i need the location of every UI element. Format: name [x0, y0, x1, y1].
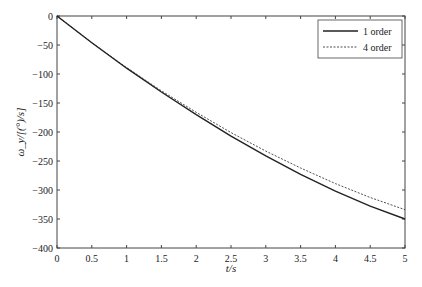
y-tick-label: −300 — [32, 185, 53, 196]
x-tick-label: 4 — [333, 253, 338, 264]
x-tick-label: 3.5 — [294, 253, 307, 264]
x-tick-label: 2 — [194, 253, 199, 264]
y-axis-label: ω_y/[(°)/s] — [14, 108, 27, 157]
y-tick-label: −350 — [32, 214, 53, 225]
x-tick-label: 0.5 — [86, 253, 99, 264]
chart: 00.511.522.533.544.55 0−50−100−150−200−2… — [0, 0, 422, 287]
x-tick-label: 5 — [403, 253, 408, 264]
y-tick-label: 0 — [48, 11, 53, 22]
x-tick-label: 1 — [124, 253, 129, 264]
y-tick-label: −50 — [37, 40, 53, 51]
legend-label-1-order: 1 order — [363, 26, 392, 37]
y-tick-label: −250 — [32, 156, 53, 167]
x-tick-label: 4.5 — [364, 253, 377, 264]
y-tick-label: −150 — [32, 98, 53, 109]
legend-label-4-order: 4 order — [363, 42, 392, 53]
x-tick-label: 1.5 — [155, 253, 168, 264]
x-tick-label: 0 — [55, 253, 60, 264]
y-tick-label: −400 — [32, 243, 53, 254]
legend: 1 order 4 order — [318, 20, 402, 58]
y-tick-label: −200 — [32, 127, 53, 138]
x-axis-label: t/s — [226, 262, 236, 274]
y-tick-label: −100 — [32, 69, 53, 80]
x-tick-label: 3 — [263, 253, 268, 264]
